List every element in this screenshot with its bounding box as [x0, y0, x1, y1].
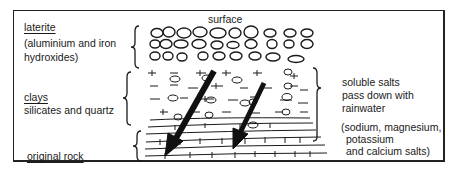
left-arrow-shaft [175, 71, 214, 140]
laterite-pebbles [150, 26, 313, 63]
right-arrow-shaft [240, 83, 264, 133]
laterite-brace-icon [131, 26, 139, 68]
rainwater-arrows [165, 71, 264, 156]
clays-brace-icon [123, 72, 131, 125]
original-rock-brace-icon [133, 131, 141, 161]
soil-profile-illustration [0, 0, 458, 193]
